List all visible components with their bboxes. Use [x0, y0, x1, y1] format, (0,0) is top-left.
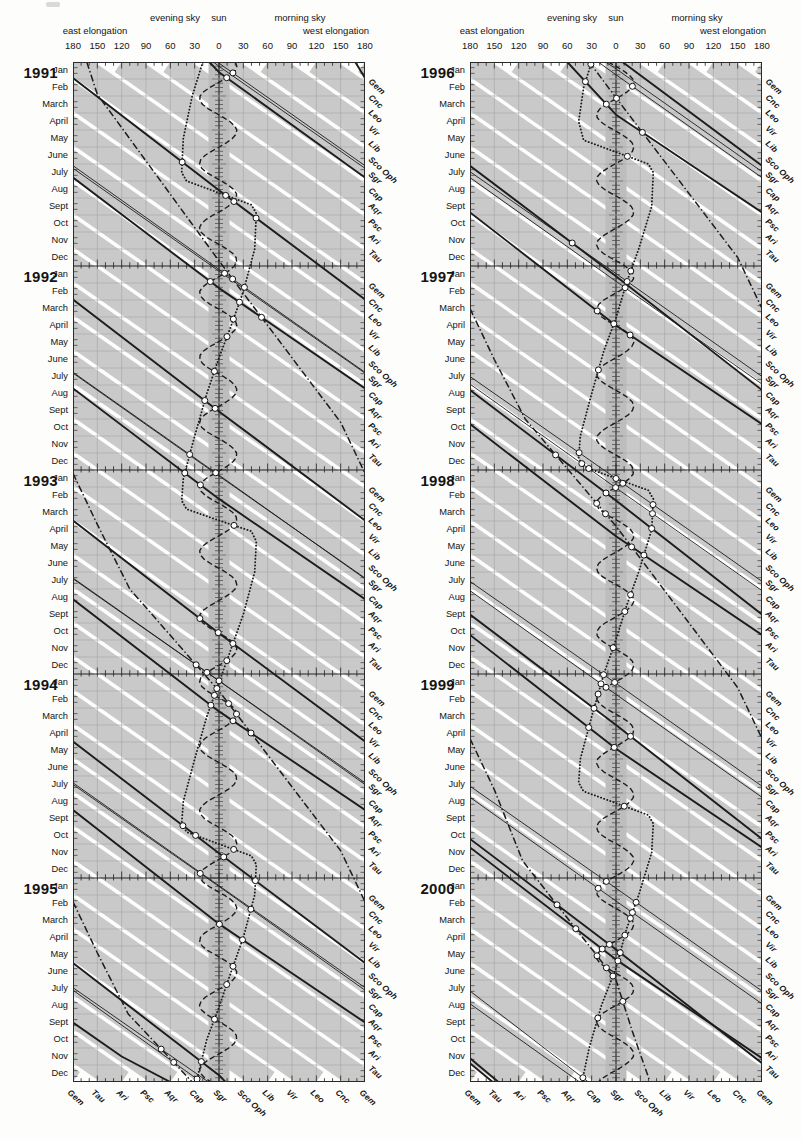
- constellation-right-label: Cnc: [764, 500, 783, 518]
- month-label: Nov: [425, 847, 465, 857]
- constellation-right-label: Cap: [367, 593, 386, 611]
- month-label: Jan: [425, 677, 465, 687]
- month-label: Dec: [28, 864, 68, 874]
- constellation-bottom-label: Sgr: [212, 1087, 229, 1104]
- east-elongation-label: east elongation: [444, 25, 540, 36]
- month-label: Nov: [28, 439, 68, 449]
- elongation-tick-label: 180: [748, 40, 776, 51]
- month-label: June: [28, 150, 68, 160]
- constellation-right-label: Vir: [367, 531, 382, 546]
- constellation-right-label: Psc: [367, 420, 385, 438]
- month-label: Aug: [28, 388, 68, 398]
- constellation-right-label: Tau: [764, 1063, 782, 1080]
- month-label: Feb: [28, 82, 68, 92]
- month-label: June: [425, 354, 465, 364]
- constellation-bottom-label: Lib: [260, 1087, 276, 1103]
- constellation-right-label: Cap: [764, 185, 783, 203]
- constellation-right-label: Lib: [367, 750, 383, 766]
- constellation-right-label: Leo: [367, 923, 385, 941]
- month-label: Sept: [425, 405, 465, 415]
- month-label: Aug: [425, 388, 465, 398]
- month-label: June: [28, 354, 68, 364]
- month-label: March: [425, 711, 465, 721]
- constellation-right-label: Vir: [367, 327, 382, 342]
- month-label: March: [28, 915, 68, 925]
- west-elongation-label: west elongation: [685, 25, 781, 36]
- constellation-right-label: Ari: [764, 1047, 780, 1063]
- constellation-right-label: Aqr: [367, 1016, 385, 1033]
- month-label: Sept: [425, 201, 465, 211]
- constellation-right-label: Lib: [367, 546, 383, 562]
- constellation-right-label: Cap: [764, 797, 783, 815]
- month-label: Sept: [425, 1017, 465, 1027]
- month-label: Dec: [425, 1068, 465, 1078]
- constellation-right-label: Tau: [367, 247, 385, 264]
- constellation-right-label: Gem: [764, 892, 785, 912]
- constellation-bottom-label: Ari: [114, 1087, 130, 1103]
- month-label: May: [28, 337, 68, 347]
- month-label: May: [28, 133, 68, 143]
- constellation-bottom-label: Ari: [511, 1087, 527, 1103]
- month-label: May: [425, 541, 465, 551]
- constellation-right-label: Cnc: [764, 92, 783, 110]
- month-label: Oct: [28, 830, 68, 840]
- month-label: Feb: [425, 286, 465, 296]
- constellation-right-label: Leo: [764, 719, 782, 737]
- month-label: April: [28, 932, 68, 942]
- month-label: April: [28, 116, 68, 126]
- constellation-right-label: Vir: [367, 123, 382, 138]
- month-label: Nov: [28, 643, 68, 653]
- constellation-right-label: Psc: [367, 624, 385, 642]
- month-label: Nov: [425, 439, 465, 449]
- constellation-right-label: Gem: [367, 688, 388, 708]
- constellation-right-label: Tau: [764, 451, 782, 468]
- constellation-right-label: Cnc: [764, 908, 783, 926]
- month-label: Feb: [28, 898, 68, 908]
- constellation-bottom-label: Leo: [706, 1087, 724, 1105]
- constellation-bottom-label: Tau: [487, 1087, 505, 1104]
- constellation-right-label: Cap: [367, 797, 386, 815]
- constellation-bottom-label: Vir: [285, 1087, 300, 1102]
- month-label: April: [28, 728, 68, 738]
- constellation-right-label: Tau: [764, 859, 782, 876]
- constellation-right-label: Lib: [367, 954, 383, 970]
- month-label: June: [425, 150, 465, 160]
- month-label: March: [425, 507, 465, 517]
- month-label: June: [425, 762, 465, 772]
- month-label: July: [425, 575, 465, 585]
- constellation-bottom-label: Gem: [358, 1087, 379, 1107]
- constellation-right-label: Cap: [764, 593, 783, 611]
- constellation-right-label: Tau: [367, 451, 385, 468]
- morning-sky-label: morning sky: [255, 12, 345, 23]
- constellation-right-label: Gem: [367, 484, 388, 504]
- constellation-right-label: Cnc: [764, 296, 783, 314]
- month-label: Feb: [28, 694, 68, 704]
- constellation-right-label: Psc: [367, 216, 385, 234]
- month-label: April: [28, 524, 68, 534]
- month-label: May: [28, 745, 68, 755]
- east-elongation-label: east elongation: [47, 25, 143, 36]
- constellation-right-label: Aqr: [764, 812, 782, 829]
- plot-area-1996-2000: [470, 62, 762, 1082]
- constellation-bottom-label: Psc: [536, 1087, 554, 1105]
- constellation-right-label: Cnc: [764, 704, 783, 722]
- constellation-bottom-label: Leo: [309, 1087, 327, 1105]
- constellation-right-label: Psc: [367, 828, 385, 846]
- constellation-right-label: Gem: [764, 484, 785, 504]
- month-label: March: [28, 303, 68, 313]
- constellation-bottom-label: Aqr: [163, 1087, 181, 1104]
- month-label: Feb: [28, 490, 68, 500]
- constellation-right-label: Lib: [764, 138, 780, 154]
- month-label: Aug: [28, 1000, 68, 1010]
- morning-sky-label: morning sky: [652, 12, 742, 23]
- constellation-right-label: Gem: [367, 892, 388, 912]
- constellation-bottom-label: Gem: [66, 1087, 87, 1107]
- constellation-right-label: Vir: [367, 939, 382, 954]
- constellation-right-label: Aqr: [764, 1016, 782, 1033]
- constellation-bottom-label: Cnc: [333, 1087, 352, 1105]
- constellation-right-label: Cap: [764, 389, 783, 407]
- month-label: Jan: [28, 677, 68, 687]
- constellation-right-label: Lib: [764, 954, 780, 970]
- constellation-bottom-label: Sgr: [609, 1087, 626, 1104]
- constellation-bottom-label: Aqr: [560, 1087, 578, 1104]
